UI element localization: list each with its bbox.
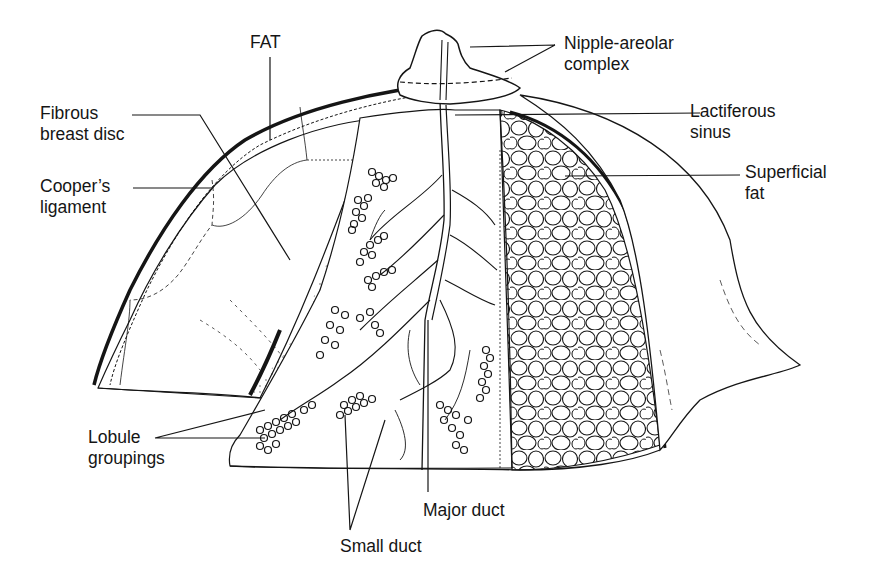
- label-major-duct: Major duct: [423, 500, 505, 521]
- label-line: Lobule: [88, 427, 165, 448]
- label-line: fat: [745, 183, 827, 204]
- label-lobule-groupings: Lobule groupings: [88, 427, 165, 469]
- label-lactiferous-sinus: Lactiferous sinus: [690, 101, 776, 143]
- label-line: sinus: [690, 122, 776, 143]
- label-line: Major duct: [423, 500, 505, 521]
- label-line: Small duct: [340, 536, 422, 557]
- label-nipple-areolar-complex: Nipple-areolar complex: [564, 33, 674, 75]
- label-fat-line: FAT: [250, 32, 281, 53]
- label-line: Superficial: [745, 162, 827, 183]
- label-fat: FAT: [250, 32, 281, 53]
- label-line: Fibrous: [40, 103, 125, 124]
- label-line: Cooper’s: [40, 176, 110, 197]
- label-small-duct: Small duct: [340, 536, 422, 557]
- label-fibrous-breast-disc: Fibrous breast disc: [40, 103, 125, 145]
- label-line: complex: [564, 54, 674, 75]
- label-coopers-ligament: Cooper’s ligament: [40, 176, 110, 218]
- label-line: ligament: [40, 197, 110, 218]
- label-line: Lactiferous: [690, 101, 776, 122]
- label-line: breast disc: [40, 124, 125, 145]
- nipple-areolar-complex: [398, 30, 520, 104]
- label-line: Nipple-areolar: [564, 33, 674, 54]
- breast-anatomy-diagram: [0, 0, 891, 572]
- label-line: groupings: [88, 448, 165, 469]
- label-superficial-fat: Superficial fat: [745, 162, 827, 204]
